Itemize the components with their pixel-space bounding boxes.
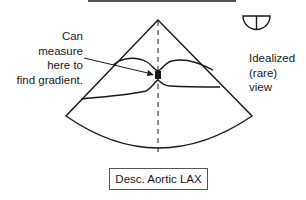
annotation-line-4: find gradient. — [8, 73, 83, 88]
arrow-head-icon — [147, 70, 154, 76]
gradient-annotation: Can measure here to find gradient. — [8, 29, 83, 87]
note-line-1: Idealized — [249, 51, 304, 66]
aorta-lower-wall — [81, 80, 220, 99]
note-line-2: (rare) — [249, 66, 304, 81]
view-label-box: Desc. Aortic LAX — [109, 168, 208, 190]
annotation-line-2: measure — [8, 44, 83, 59]
annotation-line-1: Can — [8, 29, 83, 44]
idealized-view-note: Idealized (rare) view — [249, 51, 304, 95]
annotation-line-3: here to — [8, 58, 83, 73]
note-line-3: view — [249, 80, 304, 95]
ultrasound-sector-icon — [66, 20, 252, 148]
coarctation-marker-icon — [155, 71, 161, 79]
